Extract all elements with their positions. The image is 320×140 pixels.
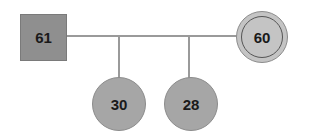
marriage-line [66, 35, 238, 37]
mother-age: 60 [254, 29, 271, 46]
mother-node: 60 [236, 11, 288, 63]
father-age: 61 [35, 29, 52, 46]
child-1-age: 30 [111, 96, 128, 113]
child-line-2 [188, 36, 190, 83]
child-2-age: 28 [183, 96, 200, 113]
child-1-node: 30 [92, 77, 146, 131]
father-node: 61 [20, 14, 67, 61]
child-line-1 [118, 36, 120, 83]
child-2-node: 28 [164, 77, 218, 131]
